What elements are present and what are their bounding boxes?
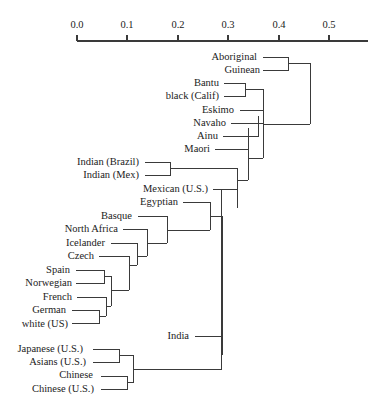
branch (224, 83, 245, 96)
leaf-label: white (US) (22, 318, 69, 330)
distance-axis: 0.0 0.1 0.2 0.3 0.4 0.5 (70, 19, 368, 41)
leaf-label: black (Calif) (166, 90, 220, 102)
leaf-label: Japanese (U.S.) (17, 343, 83, 355)
leaf-label: French (43, 291, 73, 302)
tick-label: 0.4 (272, 19, 286, 30)
branch (223, 116, 258, 136)
branch (76, 270, 104, 283)
leaf-label: Norwegian (25, 277, 72, 288)
tick-label: 0.0 (70, 19, 83, 30)
tick-label: 0.1 (120, 19, 133, 30)
leaf-label: Aboriginal (212, 51, 258, 62)
leaf-label: Egyptian (140, 196, 179, 207)
leaf-label: Basque (101, 210, 132, 221)
branch (101, 376, 127, 389)
leaf-label: North Africa (65, 223, 119, 234)
branch (210, 216, 222, 355)
leaf-label: Chinese (U.S.) (32, 383, 95, 395)
leaf-label: Czech (68, 250, 95, 261)
leaf-label: India (167, 330, 189, 341)
branch (104, 276, 111, 306)
leaf-label: Indian (Brazil) (77, 156, 140, 168)
tick-label: 0.2 (171, 19, 184, 30)
leaf-label: Spain (46, 264, 71, 275)
leaf-labels: Aboriginal Guinean Bantu black (Calif) E… (17, 51, 260, 395)
leaf-label: German (32, 304, 67, 315)
branch (288, 63, 310, 124)
leaf-label: Eskimo (202, 104, 234, 115)
branch (93, 349, 119, 362)
leaf-label: Asians (U.S.) (29, 356, 86, 368)
leaf-label: Chinese (59, 369, 93, 380)
leaf-label: Icelander (66, 237, 106, 248)
leaf-label: Guinean (224, 64, 260, 75)
dendrogram-chart: 0.0 0.1 0.2 0.3 0.4 0.5 Aboriginal Guine… (0, 0, 382, 411)
branch (77, 297, 106, 316)
branch (111, 243, 137, 265)
branch (119, 355, 133, 382)
tick-label: 0.3 (221, 19, 234, 30)
leaf-label: Bantu (194, 77, 220, 88)
leaf-label: Maori (184, 143, 210, 154)
branch (145, 162, 170, 175)
leaf-label: Ainu (197, 130, 219, 141)
branch (215, 128, 248, 149)
leaf-label: Mexican (U.S.) (143, 183, 209, 195)
leaf-label: Indian (Mex) (83, 169, 139, 181)
branch (72, 310, 99, 323)
tick-label: 0.5 (322, 19, 335, 30)
branch (263, 57, 288, 70)
branch (183, 202, 210, 230)
leaf-label: Navaho (193, 117, 226, 128)
